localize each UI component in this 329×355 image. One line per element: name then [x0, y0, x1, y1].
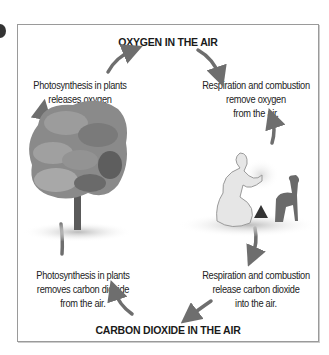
oxygen-carbon-cycle-diagram: OXYGEN IN THE AIR CARBON DIOXIDE IN THE … [17, 24, 319, 342]
tree-illustration [23, 101, 133, 242]
dog-figure [275, 175, 299, 222]
arrow-co2-to-left [114, 290, 132, 314]
arrow-oxygen-to-right [198, 50, 220, 77]
campfire-illustration [178, 153, 318, 237]
figure-marker [0, 24, 6, 38]
arrow-up-left-to-oxygen [108, 50, 133, 72]
arrow-right-to-co2 [189, 301, 211, 317]
arrow-fire-up [272, 118, 274, 143]
campfire [254, 205, 268, 218]
